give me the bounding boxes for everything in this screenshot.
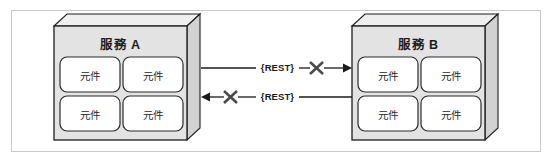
service-b-component-label-4: 元件 [421, 107, 481, 122]
service-a-component-label-1: 元件 [60, 68, 120, 83]
service-b-component-label-3: 元件 [358, 107, 418, 122]
service-a-title: 服務 A [54, 34, 187, 53]
service-a-top-face [54, 14, 200, 26]
service-a-side-face [187, 14, 200, 140]
connection-b-to-a-label: {REST} [256, 91, 299, 102]
diagram-canvas: 服務 A 元件 元件 元件 元件 服務 B 元件 元件 元件 元件 {REST}… [0, 0, 553, 164]
service-b-top-face [352, 14, 498, 26]
service-b-component-label-2: 元件 [421, 68, 481, 83]
arrowhead-left-icon [201, 92, 210, 101]
service-a-component-label-3: 元件 [60, 107, 120, 122]
service-b-title: 服務 B [352, 34, 485, 53]
service-a-component-label-4: 元件 [123, 107, 183, 122]
x-mark-icon [224, 91, 237, 103]
connection-a-to-b-label: {REST} [256, 62, 299, 73]
service-b-side-face [485, 14, 498, 140]
service-b-component-label-1: 元件 [358, 68, 418, 83]
arrowhead-right-icon [343, 63, 352, 72]
service-a-component-label-2: 元件 [123, 68, 183, 83]
x-mark-icon [310, 62, 323, 74]
